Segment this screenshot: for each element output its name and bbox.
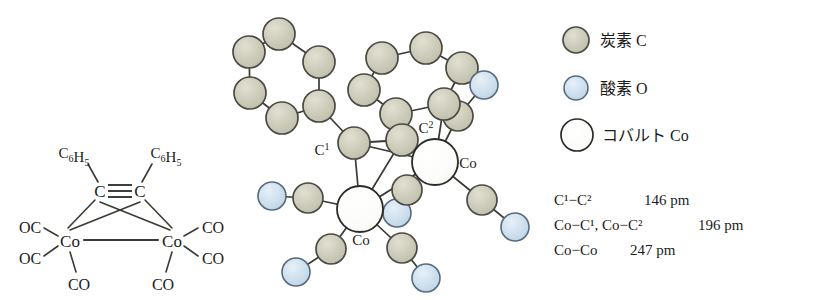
- bond-co-right-co-bottom: [166, 252, 172, 272]
- bond-length-row-label-1: Co−C¹, Co−C²: [554, 217, 643, 233]
- atom-carbon: [410, 32, 442, 64]
- triple-bond-lines: [108, 185, 132, 197]
- carbon-sphere-icon: [563, 27, 589, 53]
- legend-and-metrics-panel: 炭素 C 酸素 O コバルト Co C¹−C² 146 pm Co−C¹, Co…: [552, 0, 821, 300]
- cluster-core: [337, 124, 458, 232]
- ball-and-stick-model: C1 C2 Co Co: [230, 0, 550, 300]
- atom-carbon: [348, 74, 380, 106]
- atom-carbon: [233, 36, 265, 68]
- atom-cobalt-upper: [412, 139, 458, 185]
- formula-alkyne-carbon-right: C: [134, 182, 145, 201]
- atom-carbon: [234, 77, 266, 109]
- formula-substituent-left: C6H5: [59, 145, 90, 168]
- formula-carbonyl-left-bottom: CO: [68, 276, 90, 293]
- atom-carbon: [266, 102, 298, 134]
- phenyl-ring-right: [348, 32, 478, 106]
- formula-substituent-right: C6H5: [151, 145, 182, 168]
- atom-carbon: [428, 88, 460, 120]
- bond-ph-right-c2: [142, 164, 152, 182]
- formula-carbonyl-right-upper: CO: [202, 219, 224, 236]
- legend-item-cobalt: コバルト Co: [561, 119, 689, 151]
- model-label-cobalt-lower: Co: [352, 232, 370, 248]
- legend-diagram: 炭素 C 酸素 O コバルト Co C¹−C² 146 pm Co−C¹, Co…: [552, 0, 821, 300]
- formula-carbonyl-left-upper: OC: [19, 219, 41, 236]
- atom-oxygen: [282, 258, 310, 286]
- atom-oxygen: [470, 71, 498, 99]
- oxygen-sphere-icon: [564, 76, 588, 100]
- structural-formula-panel: C6H5 C6H5 C C Co Co OC OC CO CO CO CO: [0, 130, 235, 300]
- atom-oxygen: [501, 213, 529, 241]
- legend-item-carbon: 炭素 C: [563, 27, 647, 53]
- atom-oxygen: [258, 182, 286, 210]
- legend-label-cobalt: コバルト Co: [602, 127, 689, 144]
- bond-co-left-oc-lower: [44, 246, 58, 256]
- chemistry-figure: C6H5 C6H5 C C Co Co OC OC CO CO CO CO: [0, 0, 821, 300]
- atom-carbon: [467, 185, 497, 215]
- structural-formula-diagram: C6H5 C6H5 C C Co Co OC OC CO CO CO CO: [0, 130, 235, 300]
- bond-ph-left-c1: [88, 164, 98, 182]
- atom-carbon: [387, 233, 417, 263]
- bond-length-row-value-0: 146 pm: [644, 192, 690, 208]
- atom-oxygen: [412, 264, 440, 292]
- formula-carbonyl-right-bottom: CO: [152, 276, 174, 293]
- formula-carbonyl-left-lower: OC: [19, 250, 41, 267]
- bond-c2-co-right: [145, 200, 172, 228]
- carbonyl-ligands: [258, 182, 529, 292]
- atom-carbon: [263, 18, 295, 50]
- atom-carbon: [293, 183, 323, 213]
- model-label-c1: C1: [314, 141, 329, 158]
- legend-item-oxygen: 酸素 O: [564, 76, 648, 100]
- bond-length-row-label-2: Co−Co: [554, 242, 597, 258]
- bond-co-right-co-upper: [184, 228, 198, 236]
- formula-alkyne-carbon-left: C: [94, 182, 105, 201]
- model-label-c2: C2: [418, 119, 433, 136]
- bond-length-row-value-2: 247 pm: [630, 242, 676, 258]
- formula-cobalt-left: Co: [60, 232, 80, 251]
- bond-co-right-co-lower: [184, 246, 198, 256]
- atom-carbon: [366, 42, 398, 74]
- legend-label-carbon: 炭素 C: [600, 32, 647, 49]
- atom-carbon: [303, 90, 335, 122]
- bond-co-left-co-bottom: [70, 252, 76, 272]
- cobalt-sphere-icon: [561, 119, 593, 151]
- bond-length-list: C¹−C² 146 pm Co−C¹, Co−C² 196 pm Co−Co 2…: [554, 192, 744, 258]
- formula-cobalt-right: Co: [162, 232, 182, 251]
- atom-carbon-c2: [386, 124, 418, 156]
- ball-and-stick-model-panel: C1 C2 Co Co: [230, 0, 550, 300]
- formula-carbonyl-right-lower: CO: [202, 250, 224, 267]
- atom-carbon: [392, 175, 422, 205]
- atom-cobalt-lower: [337, 186, 383, 232]
- model-label-cobalt-upper: Co: [459, 155, 477, 171]
- atom-carbon: [303, 46, 335, 78]
- bond-c1-co-left: [68, 200, 95, 228]
- bond-length-row-value-1: 196 pm: [698, 217, 744, 233]
- atom-carbon-c1: [338, 127, 370, 159]
- legend-label-oxygen: 酸素 O: [600, 80, 648, 97]
- atom-carbon: [316, 234, 346, 264]
- phenyl-ring-left: [233, 18, 335, 134]
- bond-co-left-oc-upper: [44, 228, 58, 236]
- bond-length-row-label-0: C¹−C²: [554, 192, 592, 208]
